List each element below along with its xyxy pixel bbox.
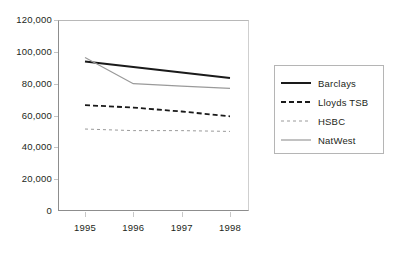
x-tick-mark: [133, 212, 134, 217]
x-tick-label: 1996: [122, 222, 144, 233]
y-axis-labels: 020,00040,00060,00080,000100,000120,000: [0, 0, 52, 257]
x-tick-label: 1998: [219, 222, 241, 233]
legend-item-lloyds-tsb[interactable]: Lloyds TSB: [281, 92, 381, 112]
legend-item-hsbc[interactable]: HSBC: [281, 111, 381, 131]
series-line-hsbc: [85, 129, 230, 131]
y-tick-label: 60,000: [0, 111, 52, 121]
y-tick-label: 40,000: [0, 142, 52, 152]
legend-label: NatWest: [318, 135, 356, 146]
legend-item-natwest[interactable]: NatWest: [281, 130, 381, 150]
x-tick-label: 1995: [74, 222, 96, 233]
x-tick-mark: [230, 212, 231, 217]
series-line-natwest: [85, 57, 230, 88]
dashed-thin-line-icon: [281, 116, 311, 126]
y-tick-label: 100,000: [0, 47, 52, 57]
y-tick-label: 0: [0, 206, 52, 216]
y-tick-label: 120,000: [0, 15, 52, 25]
legend-label: Barclays: [318, 78, 356, 89]
x-tick-mark: [182, 212, 183, 217]
x-tick-label: 1997: [171, 222, 193, 233]
legend-label: HSBC: [318, 116, 345, 127]
solid-thick-line-icon: [281, 78, 311, 88]
solid-thin-line-icon: [281, 135, 311, 145]
plot-area: 020,00040,00060,00080,000100,000120,000 …: [0, 0, 258, 257]
legend: BarclaysLloyds TSBHSBCNatWest: [274, 65, 384, 154]
legend-label: Lloyds TSB: [318, 97, 368, 108]
series-canvas: [58, 20, 249, 211]
y-tick-label: 80,000: [0, 79, 52, 89]
x-axis-labels: 1995199619971998: [58, 222, 249, 242]
x-tick-mark: [85, 212, 86, 217]
legend-item-barclays[interactable]: Barclays: [281, 73, 381, 93]
line-chart: 020,00040,00060,00080,000100,000120,000 …: [0, 0, 395, 257]
dashed-thick-line-icon: [281, 97, 311, 107]
y-tick-label: 20,000: [0, 174, 52, 184]
series-line-lloyds-tsb: [85, 105, 230, 116]
